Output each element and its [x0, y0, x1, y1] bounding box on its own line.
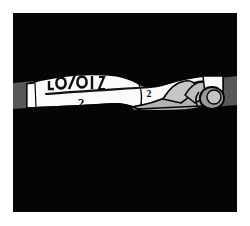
artwork-title: Comic panel: hand gripping a banner with…: [0, 0, 1, 1]
inscription-note: handwritten fraction on the banner, nume…: [0, 0, 1, 1]
comic-panel: 2 2: [13, 13, 237, 212]
panel-artwork: 2 2: [13, 13, 237, 212]
fraction-denominator: 2: [78, 95, 85, 110]
thumb-nail: [207, 90, 221, 104]
panel-background: [13, 13, 237, 212]
inscription-trailing-mark: 2: [147, 88, 152, 99]
band-left-cap: [27, 83, 36, 108]
inscription-raw: [ ? ] / 2 2: [0, 0, 1, 1]
artwork-stage: 2 2: [0, 0, 250, 226]
